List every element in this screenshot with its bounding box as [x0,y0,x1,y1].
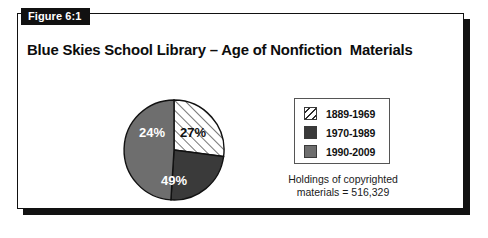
legend-label-1889-1969: 1889-1969 [326,108,375,120]
chart-title: Blue Skies School Library – Age of Nonfi… [27,41,413,59]
pie-chart: 27% 49% 24% [122,98,226,202]
legend-item-1990-2009: 1990-2009 [304,142,389,161]
pie-slice-label-1889-1969: 27% [180,125,206,140]
legend-swatch-dark [304,126,317,139]
pie-chart-svg: 27% 49% 24% [122,98,226,202]
figure-number-label: Figure 6:1 [21,8,90,25]
legend-swatch-hatched [304,107,317,120]
legend-swatch-gray [304,145,317,158]
legend-caption: Holdings of copyrighted materials = 516,… [276,173,410,199]
pie-slice-label-1970-1989: 49% [161,173,187,188]
frame-shadow-bottom [23,209,470,215]
chart-legend: 1889-1969 1970-1989 1990-2009 [294,98,390,164]
frame-shadow-right [464,19,470,215]
pie-slice-label-1990-2009: 24% [139,125,165,140]
legend-item-1889-1969: 1889-1969 [304,104,389,123]
legend-label-1970-1989: 1970-1989 [326,127,375,139]
legend-item-1970-1989: 1970-1989 [304,123,389,142]
legend-label-1990-2009: 1990-2009 [326,146,375,158]
